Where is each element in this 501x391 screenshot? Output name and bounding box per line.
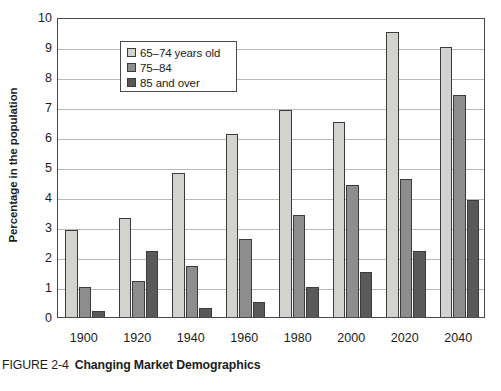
x-axis-tick-label: 2040 — [431, 330, 485, 346]
y-axis-tick-label: 2 — [24, 251, 52, 265]
legend-swatch-icon — [127, 48, 136, 57]
y-axis-tick-label: 7 — [24, 101, 52, 115]
plot-area: 65–74 years old75–8485 and over — [57, 18, 485, 318]
bar[interactable] — [360, 272, 373, 317]
bar[interactable] — [239, 239, 252, 317]
legend-item[interactable]: 75–84 — [127, 60, 231, 75]
y-axis-tick-label: 1 — [24, 281, 52, 295]
bar-group — [272, 19, 326, 317]
bar[interactable] — [79, 287, 92, 317]
y-axis-tick-label: 0 — [24, 311, 52, 325]
bar[interactable] — [199, 308, 212, 317]
bar-group — [433, 19, 486, 317]
y-axis-tick-label: 8 — [24, 71, 52, 85]
bar[interactable] — [453, 95, 466, 317]
legend-swatch-icon — [127, 63, 136, 72]
figure-caption: FIGURE 2-4Changing Market Demographics — [2, 356, 499, 376]
y-axis-tick-label: 4 — [24, 191, 52, 205]
legend-item-label: 65–74 years old — [140, 46, 220, 60]
legend-item-label: 75–84 — [140, 61, 171, 75]
bar-group — [326, 19, 380, 317]
y-axis-tick-label: 9 — [24, 41, 52, 55]
bar[interactable] — [146, 251, 159, 317]
bar[interactable] — [279, 110, 292, 317]
bar[interactable] — [172, 173, 185, 317]
x-axis-tick-label: 2000 — [324, 330, 378, 346]
figure-container: Percentage in the population 10987654321… — [0, 0, 501, 391]
legend-item[interactable]: 65–74 years old — [127, 45, 231, 60]
figure-caption-label: FIGURE 2-4 — [2, 358, 69, 372]
legend-item-label: 85 and over — [140, 76, 200, 90]
bar[interactable] — [293, 215, 306, 317]
y-axis-tick-label: 3 — [24, 221, 52, 235]
bar[interactable] — [346, 185, 359, 317]
x-axis-tick-labels: 19001920194019601980200020202040 — [57, 330, 485, 348]
y-axis-tick-label: 5 — [24, 161, 52, 175]
x-axis-tick-label: 1940 — [164, 330, 218, 346]
y-axis-tick-labels: 109876543210 — [24, 11, 52, 329]
bar[interactable] — [333, 122, 346, 317]
y-axis-tick-label: 10 — [24, 11, 52, 25]
y-axis-title: Percentage in the population — [4, 0, 22, 330]
x-axis-tick-label: 1960 — [217, 330, 271, 346]
x-axis-tick-label: 1980 — [271, 330, 325, 346]
bar[interactable] — [186, 266, 199, 317]
bar[interactable] — [386, 32, 399, 317]
bar[interactable] — [440, 47, 453, 317]
bar[interactable] — [226, 134, 239, 317]
bar-group — [379, 19, 433, 317]
bar[interactable] — [92, 311, 105, 317]
bar[interactable] — [306, 287, 319, 317]
bar[interactable] — [413, 251, 426, 317]
chart-legend: 65–74 years old75–8485 and over — [120, 41, 237, 92]
x-axis-tick-label: 1920 — [110, 330, 164, 346]
bar[interactable] — [119, 218, 132, 317]
bar[interactable] — [400, 179, 413, 317]
bar[interactable] — [253, 302, 266, 317]
x-axis-tick-label: 2020 — [378, 330, 432, 346]
legend-swatch-icon — [127, 78, 136, 87]
bar-group — [58, 19, 112, 317]
x-axis-tick-label: 1900 — [57, 330, 111, 346]
bar[interactable] — [132, 281, 145, 317]
bar[interactable] — [65, 230, 78, 317]
y-axis-tick-label: 6 — [24, 131, 52, 145]
legend-item[interactable]: 85 and over — [127, 75, 231, 90]
bar[interactable] — [467, 200, 480, 317]
figure-caption-title: Changing Market Demographics — [75, 358, 261, 372]
